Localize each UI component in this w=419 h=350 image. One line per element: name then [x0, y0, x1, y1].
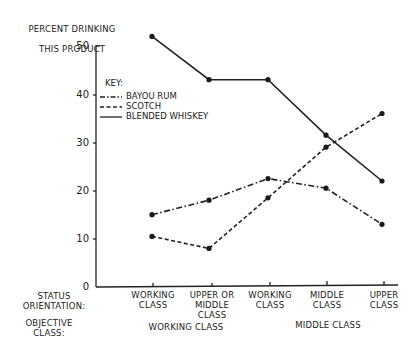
data-point	[206, 77, 211, 82]
y-tick-20: 20	[69, 185, 89, 196]
data-point	[265, 195, 270, 200]
data-point	[206, 198, 211, 203]
legend-swatches	[100, 97, 122, 117]
data-point	[206, 246, 211, 251]
x-category-2: UPPER OR MIDDLE CLASS	[184, 290, 240, 320]
x-category-1: WORKING CLASS	[128, 290, 178, 310]
x-category-3: WORKING CLASS	[244, 290, 296, 310]
y-axis-title: PERCENT DRINKING THIS PRODUCT	[2, 14, 142, 64]
y-tick-30: 30	[69, 137, 89, 148]
y-tick-10: 10	[69, 233, 89, 244]
status-orientation-label: STATUS ORIENTATION:	[18, 291, 90, 311]
data-point	[265, 176, 270, 181]
data-point	[149, 34, 154, 39]
objective-class-label: OBJECTIVE CLASS:	[14, 318, 84, 338]
objective-group-middle-class: MIDDLE CLASS	[283, 320, 373, 330]
y-axis-title-line1: PERCENT DRINKING	[2, 24, 142, 34]
legend: KEY:	[105, 78, 123, 89]
axes	[93, 46, 398, 287]
data-point	[149, 212, 154, 217]
series-bayou-rum	[149, 176, 384, 227]
objective-group-working-class: WORKING CLASS	[136, 322, 236, 332]
series-layer	[149, 34, 384, 251]
y-tick-40: 40	[69, 89, 89, 100]
x-category-5: UPPER CLASS	[362, 290, 406, 310]
series-blended-whiskey	[149, 34, 384, 184]
data-point	[149, 234, 154, 239]
x-category-4: MIDDLE CLASS	[302, 290, 352, 310]
data-point	[323, 186, 328, 191]
data-point	[265, 77, 270, 82]
data-point	[379, 222, 384, 227]
y-tick-50: 50	[69, 40, 89, 51]
data-point	[323, 145, 328, 150]
legend-item-blended-whiskey: BLENDED WHISKEY	[126, 111, 208, 122]
data-point	[323, 133, 328, 138]
x-axis	[96, 285, 398, 287]
legend-title: KEY:	[105, 78, 123, 89]
data-point	[379, 111, 384, 116]
data-point	[379, 178, 384, 183]
